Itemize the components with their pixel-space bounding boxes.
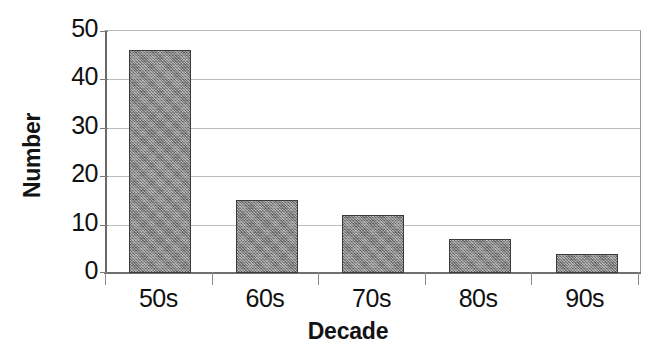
x-axis-tick-labels: 50s 60s 70s 80s 90s <box>105 283 638 317</box>
bar-slot-80s <box>427 31 534 273</box>
y-axis-tick-labels: 50 40 30 20 10 0 <box>44 14 98 290</box>
x-tick-label-80s: 80s <box>425 283 532 313</box>
bars-layer <box>107 31 640 273</box>
x-tick-label-50s: 50s <box>105 283 212 313</box>
x-axis-title: Decade <box>0 318 666 345</box>
bar-slot-60s <box>214 31 321 273</box>
y-tick-label-40: 40 <box>44 64 98 89</box>
bar-50s <box>129 50 191 273</box>
bar-80s <box>449 239 511 273</box>
y-tick-label-10: 10 <box>44 210 98 235</box>
y-tick-label-30: 30 <box>44 113 98 138</box>
y-tick-label-50: 50 <box>44 16 98 41</box>
bar-slot-70s <box>320 31 427 273</box>
x-tick-label-90s: 90s <box>531 283 638 313</box>
x-tick-label-60s: 60s <box>212 283 319 313</box>
bar-slot-50s <box>107 31 214 273</box>
x-tick-label-70s: 70s <box>318 283 425 313</box>
bar-slot-90s <box>533 31 640 273</box>
y-tick-label-0: 0 <box>44 258 98 283</box>
bar-70s <box>342 215 404 273</box>
x-tickmark-5 <box>638 272 639 285</box>
bar-60s <box>236 200 298 273</box>
bar-90s <box>556 254 618 273</box>
y-axis-title: Number <box>19 96 46 216</box>
plot-area <box>105 30 641 273</box>
y-tick-label-20: 20 <box>44 161 98 186</box>
bar-chart: Number 50 40 30 20 10 0 <box>0 0 666 364</box>
